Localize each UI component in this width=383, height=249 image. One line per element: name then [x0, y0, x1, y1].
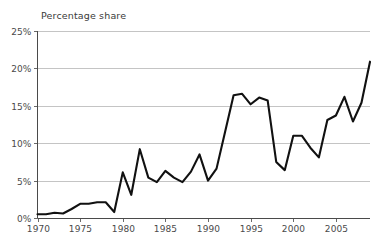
data-series-line — [38, 62, 371, 215]
y-axis-tick-label: 15% — [11, 102, 32, 112]
x-axis-ticks-group: 19701975198019851990199520002005 — [27, 218, 348, 234]
y-axis-tick-label: 0% — [17, 214, 32, 224]
y-axis-tick-label: 5% — [17, 177, 32, 187]
x-axis-tick-label: 2005 — [325, 224, 348, 234]
chart-container: Percentage share 0%5%10%15%20%25% 197019… — [0, 0, 383, 249]
x-axis-tick-label: 1980 — [112, 224, 135, 234]
y-axis-tick-label: 20% — [11, 64, 32, 74]
x-axis-tick-label: 1970 — [27, 224, 50, 234]
x-axis-tick-label: 1975 — [69, 224, 92, 234]
y-axis-tick-label: 10% — [11, 139, 32, 149]
line-chart-plot: 0%5%10%15%20%25% 19701975198019851990199… — [0, 0, 383, 249]
gridlines-group — [38, 32, 371, 182]
x-axis-tick-label: 1985 — [154, 224, 177, 234]
x-axis-tick-label: 1990 — [197, 224, 220, 234]
y-axis-ticks-group: 0%5%10%15%20%25% — [11, 27, 37, 224]
y-axis-tick-label: 25% — [11, 27, 32, 37]
x-axis-tick-label: 1995 — [240, 224, 263, 234]
x-axis-tick-label: 2000 — [282, 224, 305, 234]
